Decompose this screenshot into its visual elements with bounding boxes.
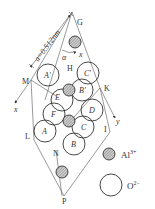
vertex-k: K: [104, 84, 110, 93]
vertex-h: H: [67, 64, 73, 73]
aluminum-ions: [56, 36, 81, 178]
dimension-annotation: a=0.512nm: [29, 12, 73, 68]
legend-oxygen-label: O2−: [127, 180, 141, 191]
label-b-prime: B′: [79, 86, 86, 95]
aluminum-bottom: [56, 166, 68, 178]
vertex-g: G: [77, 18, 83, 27]
label-c-prime: C′: [84, 69, 91, 78]
corundum-unit-cell-diagram: a=0.512nm x y α x G H K I M L N P A′ C′ …: [0, 0, 155, 209]
vertex-m: M: [22, 77, 29, 86]
y-axis-label: y: [115, 117, 120, 126]
x-axis-label: x: [13, 105, 18, 114]
legend: Al3+ O2−: [100, 148, 141, 196]
vertex-i: I: [104, 125, 107, 134]
angle-label: α: [62, 53, 67, 62]
label-d: D: [88, 106, 95, 115]
label-a-prime: A′: [43, 71, 51, 80]
label-f: F: [50, 110, 56, 119]
aluminum-upper: [63, 84, 75, 96]
vertex-l: L: [25, 132, 30, 141]
label-e: E: [54, 93, 60, 102]
label-b: B: [71, 140, 76, 149]
label-c: C: [81, 123, 87, 132]
vertex-p: P: [62, 197, 67, 206]
label-a: A: [41, 127, 47, 136]
x-small-label: x: [78, 50, 83, 59]
vertex-n: N: [53, 149, 59, 158]
legend-aluminum-icon: [103, 148, 115, 160]
legend-aluminum-label: Al3+: [121, 149, 137, 160]
aluminum-top: [69, 36, 81, 48]
aluminum-middle: [63, 115, 75, 127]
legend-oxygen-icon: [100, 174, 122, 196]
